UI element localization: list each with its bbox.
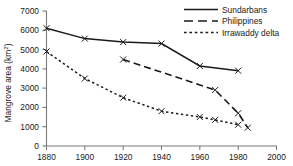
chart-legend: Sundarbans Philippines Irrawaddy delta <box>184 5 280 38</box>
line-chart: 7000 6000 5000 4000 3000 2000 1000 0 188… <box>0 0 293 166</box>
x-tick-label: 1980 <box>229 152 248 162</box>
y-axis-title-close: ) <box>3 43 13 46</box>
legend-item-philippines: Philippines <box>184 16 263 26</box>
legend-label: Irrawaddy delta <box>222 28 280 38</box>
x-tick-marks <box>47 146 277 150</box>
x-tick-label: 2000 <box>267 152 286 162</box>
y-tick-label: 1000 <box>20 122 39 132</box>
y-tick-marks <box>43 11 47 146</box>
y-tick-labels: 7000 6000 5000 4000 3000 2000 1000 0 <box>20 6 39 151</box>
series-philippines <box>120 57 251 131</box>
series-line-sundarbans <box>47 28 239 70</box>
svg-text:Mangrove area (km2): Mangrove area (km2) <box>2 43 14 122</box>
x-tick-labels: 1880 1900 1920 1940 1960 1980 2000 <box>37 152 286 162</box>
x-tick-label: 1960 <box>190 152 209 162</box>
x-tick-label: 1940 <box>152 152 171 162</box>
chart-figure: 7000 6000 5000 4000 3000 2000 1000 0 188… <box>0 0 293 166</box>
legend-label: Philippines <box>222 16 263 26</box>
y-tick-label: 6000 <box>20 25 39 35</box>
series-markers-philippines <box>120 57 251 131</box>
y-tick-label: 5000 <box>20 45 39 55</box>
y-axis-title-base: Mangrove area (km <box>3 50 13 123</box>
x-tick-label: 1880 <box>37 152 56 162</box>
y-tick-label: 3000 <box>20 83 39 93</box>
x-tick-label: 1920 <box>114 152 133 162</box>
y-tick-label: 4000 <box>20 64 39 74</box>
y-tick-label: 2000 <box>20 102 39 112</box>
legend-item-sundarbans: Sundarbans <box>184 5 267 15</box>
legend-item-irrawaddy-delta: Irrawaddy delta <box>184 28 280 38</box>
x-tick-label: 1900 <box>75 152 94 162</box>
y-tick-label: 7000 <box>20 6 39 16</box>
y-tick-label: 0 <box>34 141 39 151</box>
y-axis-title: Mangrove area (km2) <box>2 43 14 122</box>
legend-label: Sundarbans <box>222 5 267 15</box>
